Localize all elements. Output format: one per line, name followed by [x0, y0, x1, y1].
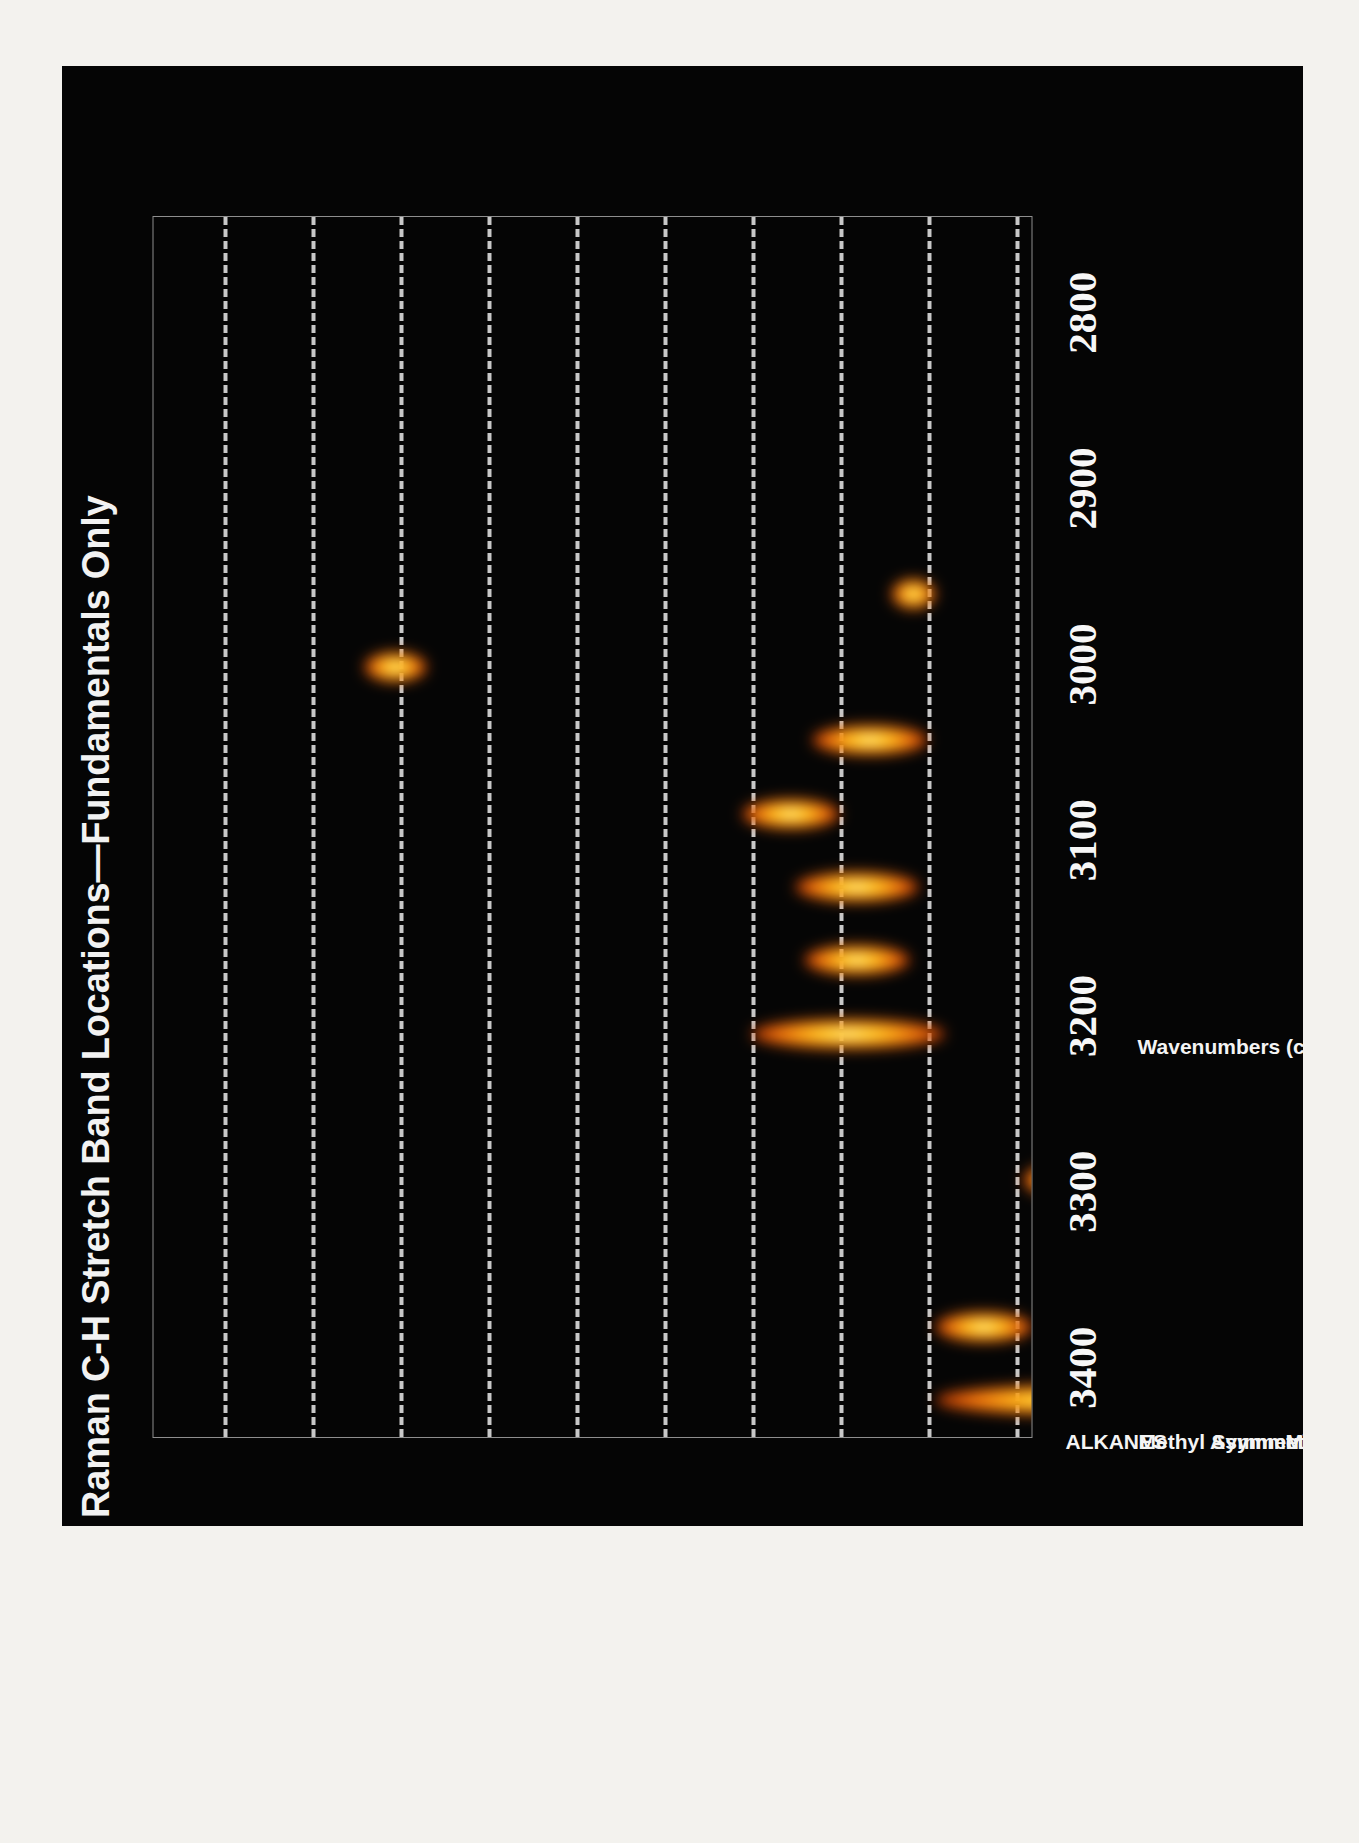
axis-tick-label: 3400 — [1057, 1327, 1105, 1409]
gridline — [575, 217, 579, 1437]
band-marker — [1023, 1165, 1032, 1195]
band-marker — [935, 1385, 1032, 1415]
axis-tick-label: 2800 — [1057, 272, 1105, 354]
gridline — [839, 217, 843, 1437]
axis-title: Wavenumbers (cm-1) — [1137, 1034, 1303, 1059]
axis-tick-label: 2900 — [1057, 448, 1105, 530]
band-marker — [935, 1312, 1032, 1342]
page-title: Raman C-H Stretch Band Locations—Fundame… — [74, 358, 117, 1518]
axis-tick-label: 3200 — [1057, 975, 1105, 1057]
value-axis-ticks: 3400330032003100300029002800 — [1057, 304, 1137, 1526]
gridline — [751, 217, 755, 1437]
category-label: Methylene Asymmetric — [1285, 1430, 1303, 1454]
gridline — [487, 217, 491, 1437]
band-marker — [891, 579, 935, 609]
axis-tick-label: 3100 — [1057, 799, 1105, 881]
gridline — [311, 217, 315, 1437]
axis-tick-label: 3300 — [1057, 1151, 1105, 1233]
band-marker — [742, 799, 839, 829]
gridline — [663, 217, 667, 1437]
axis-tick-label: 3000 — [1057, 623, 1105, 705]
plot-area — [152, 216, 1032, 1438]
rotated-chart-canvas: Raman C-H Stretch Band Locations—Fundame… — [62, 66, 1303, 1526]
band-marker — [812, 725, 926, 755]
chart-slide: Raman C-H Stretch Band Locations—Fundame… — [62, 66, 1303, 1526]
band-marker — [804, 945, 909, 975]
gridline — [223, 217, 227, 1437]
band-marker — [751, 1019, 944, 1049]
scanned-page: Raman C-H Stretch Band Locations—Fundame… — [0, 0, 1359, 1843]
gridline — [399, 217, 403, 1437]
band-marker — [795, 872, 918, 902]
band-marker — [364, 652, 426, 682]
gridline — [1015, 217, 1019, 1437]
gridline — [927, 217, 931, 1437]
